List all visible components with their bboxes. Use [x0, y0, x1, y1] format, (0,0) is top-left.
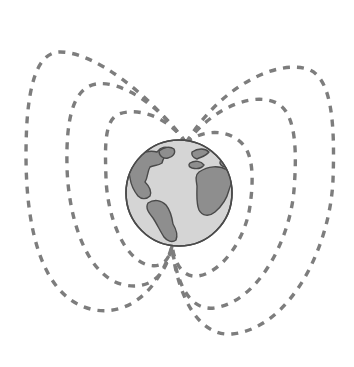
earth-globe	[126, 140, 232, 246]
landmass-west-africa-bulge	[189, 161, 204, 168]
landmass-greenland	[159, 147, 175, 158]
magnetic-field-figure	[0, 0, 354, 367]
magnetosphere-diagram	[0, 0, 354, 367]
